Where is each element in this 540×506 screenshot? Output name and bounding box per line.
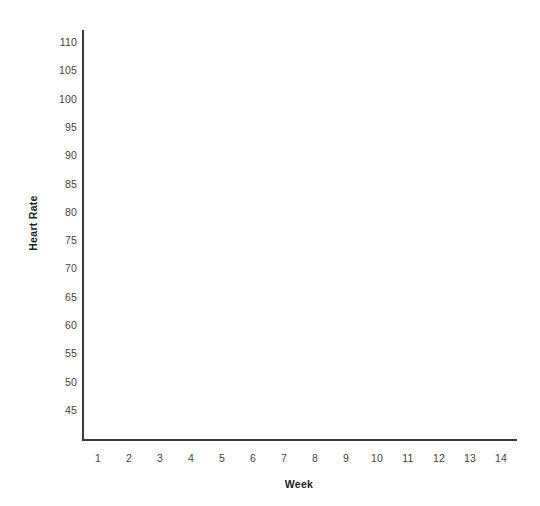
y-axis-title: Heart Rate: [27, 195, 39, 251]
chart-container: 1101051009590858075706560555045 12345678…: [0, 0, 540, 506]
x-axis-tick-label: 12: [433, 453, 445, 464]
x-axis-tick-label: 9: [343, 453, 349, 464]
x-axis-tick-labels: 1234567891011121314: [0, 0, 540, 506]
x-axis-tick-label: 11: [402, 453, 413, 464]
x-axis-tick-label: 13: [464, 453, 476, 464]
x-axis-tick-label: 5: [219, 453, 225, 464]
x-axis-tick-label: 4: [188, 453, 194, 464]
x-axis-tick-label: 6: [250, 453, 256, 464]
x-axis-title: Week: [285, 478, 313, 490]
x-axis-tick-label: 10: [371, 453, 383, 464]
x-axis-tick-label: 14: [495, 453, 507, 464]
x-axis-tick-label: 2: [126, 453, 132, 464]
x-axis-tick-label: 3: [157, 453, 163, 464]
x-axis-tick-label: 7: [281, 453, 287, 464]
x-axis-tick-label: 1: [95, 453, 101, 464]
x-axis-tick-label: 8: [312, 453, 318, 464]
